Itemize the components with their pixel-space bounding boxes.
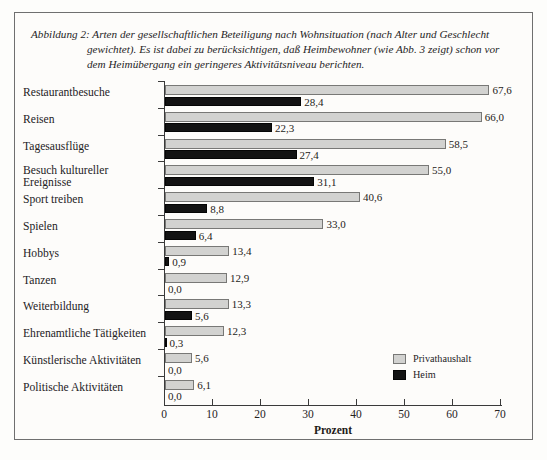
bar-privathaushalt — [165, 85, 489, 95]
bar-privathaushalt — [165, 326, 224, 336]
category-label-line: Sport treiben — [23, 194, 159, 206]
y-tick-2 — [158, 135, 164, 136]
category-label: Reisen — [23, 114, 159, 126]
x-tick-label-30: 30 — [302, 408, 314, 420]
y-tick-8 — [158, 295, 164, 296]
value-label-heim: 6,4 — [199, 230, 213, 242]
y-tick-6 — [158, 242, 164, 243]
x-tick-label-40: 40 — [350, 408, 362, 420]
x-tick-label-50: 50 — [398, 408, 410, 420]
category-label-line: Ereignisse — [23, 177, 159, 189]
value-label-heim: 28,4 — [304, 96, 323, 108]
legend-swatch-icon — [393, 354, 406, 364]
y-tick-10 — [158, 349, 164, 350]
value-label-privathaushalt: 5,6 — [195, 352, 209, 364]
category-label: Tagesausflüge — [23, 141, 159, 153]
legend-label: Heim — [413, 369, 436, 380]
value-label-privathaushalt: 13,3 — [232, 298, 251, 310]
x-tick-60 — [452, 399, 453, 406]
value-label-privathaushalt: 12,9 — [230, 272, 249, 284]
y-tick-0 — [158, 81, 164, 82]
value-label-heim: 0,0 — [168, 283, 182, 295]
category-label-line: Ehrenamtliche Tätigkeiten — [23, 328, 159, 340]
value-label-privathaushalt: 40,6 — [363, 191, 382, 203]
x-tick-label-20: 20 — [254, 408, 266, 420]
y-tick-7 — [158, 269, 164, 270]
value-label-heim: 27,4 — [300, 149, 319, 161]
x-axis-title: Prozent — [164, 424, 502, 436]
bar-heim — [165, 257, 169, 266]
value-label-privathaushalt: 58,5 — [449, 138, 468, 150]
x-tick-10 — [212, 399, 213, 406]
value-label-heim: 31,1 — [317, 176, 336, 188]
x-tick-30 — [308, 399, 309, 406]
bar-heim — [165, 338, 167, 347]
x-tick-0 — [164, 399, 165, 406]
category-label-line: Reisen — [23, 114, 159, 126]
category-label-line: Tagesausflüge — [23, 141, 159, 153]
category-label: Künstlerische Aktivitäten — [23, 355, 159, 367]
value-label-privathaushalt: 67,6 — [492, 84, 511, 96]
x-tick-20 — [260, 399, 261, 406]
bar-heim — [165, 150, 297, 159]
value-label-privathaushalt: 6,1 — [197, 379, 211, 391]
category-label: Weiterbildung — [23, 301, 159, 313]
category-label-line: Hobbys — [23, 248, 159, 260]
value-label-privathaushalt: 13,4 — [232, 245, 251, 257]
value-label-heim: 0,0 — [168, 390, 182, 402]
bar-heim — [165, 231, 196, 240]
x-tick-50 — [404, 399, 405, 406]
y-tick-3 — [158, 161, 164, 162]
value-label-privathaushalt: 12,3 — [227, 325, 246, 337]
bar-privathaushalt — [165, 165, 429, 175]
bar-privathaushalt — [165, 112, 482, 122]
y-tick-11 — [158, 376, 164, 377]
category-label-line: Restaurantbesuche — [23, 87, 159, 99]
category-label-line: Politische Aktivitäten — [23, 382, 159, 394]
value-label-heim: 22,3 — [275, 122, 294, 134]
bar-heim — [165, 97, 301, 106]
category-label-line: Tanzen — [23, 275, 159, 287]
legend-label: Privathaushalt — [413, 353, 471, 364]
value-label-privathaushalt: 33,0 — [326, 218, 345, 230]
value-label-heim: 0,3 — [169, 337, 183, 349]
category-label: Politische Aktivitäten — [23, 382, 159, 394]
bar-privathaushalt — [165, 353, 192, 363]
value-label-heim: 8,8 — [210, 203, 224, 215]
legend-item-priv: Privathaushalt — [393, 353, 471, 364]
bar-privathaushalt — [165, 219, 323, 229]
value-label-heim: 5,6 — [195, 310, 209, 322]
category-label-line: Spielen — [23, 221, 159, 233]
category-label-line: Künstlerische Aktivitäten — [23, 355, 159, 367]
bar-heim — [165, 204, 207, 213]
category-label-line: Weiterbildung — [23, 301, 159, 313]
value-label-privathaushalt: 66,0 — [485, 111, 504, 123]
category-label: Hobbys — [23, 248, 159, 260]
bar-privathaushalt — [165, 299, 229, 309]
value-label-privathaushalt: 55,0 — [432, 164, 451, 176]
bar-heim — [165, 311, 192, 320]
x-tick-label-10: 10 — [206, 408, 218, 420]
bar-heim — [165, 123, 272, 132]
x-tick-label-60: 60 — [446, 408, 458, 420]
category-label: Tanzen — [23, 275, 159, 287]
legend-item-heim: Heim — [393, 369, 471, 380]
x-tick-40 — [356, 399, 357, 406]
bar-privathaushalt — [165, 273, 227, 283]
chart-legend: PrivathaushaltHeim — [393, 353, 471, 385]
category-label: Restaurantbesuche — [23, 87, 159, 99]
figure-frame: Abbildung 2: Arten der gesellschaftliche… — [14, 12, 533, 440]
category-label: Besuch kulturellerEreignisse — [23, 165, 159, 188]
legend-swatch-icon — [393, 370, 406, 380]
category-label: Sport treiben — [23, 194, 159, 206]
x-tick-label-70: 70 — [494, 408, 506, 420]
x-tick-70 — [500, 399, 501, 406]
y-tick-9 — [158, 322, 164, 323]
category-label: Spielen — [23, 221, 159, 233]
y-tick-5 — [158, 215, 164, 216]
bar-privathaushalt — [165, 139, 446, 149]
value-label-heim: 0,9 — [172, 256, 186, 268]
category-label: Ehrenamtliche Tätigkeiten — [23, 328, 159, 340]
value-label-heim: 0,0 — [168, 364, 182, 376]
bar-privathaushalt — [165, 246, 229, 256]
